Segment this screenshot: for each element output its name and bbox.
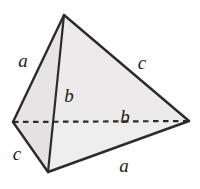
edge-label-b-vertical: b — [64, 86, 74, 105]
edge-label-a-lower-right: a — [119, 156, 129, 175]
edge-label-c-upper-right: c — [138, 53, 146, 72]
edge-label-b-dashed: b — [120, 107, 130, 126]
tetrahedron-svg — [0, 0, 200, 189]
edge-label-c-lower-left: c — [13, 144, 21, 163]
edge-label-a-upper-left: a — [18, 51, 28, 70]
tetrahedron-figure: a c b b c a — [0, 0, 200, 189]
